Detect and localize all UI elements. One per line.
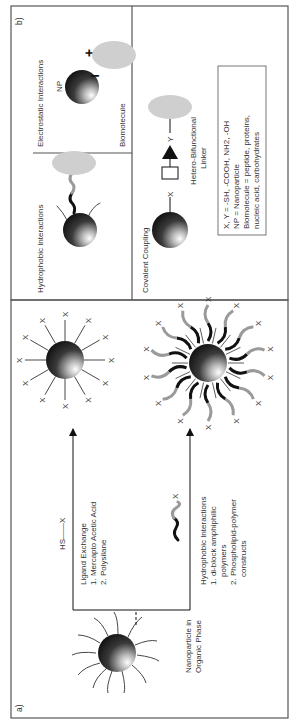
terminal-x: X [38,317,47,323]
terminal-x: X [204,424,213,430]
terminal-x: X [61,311,70,317]
terminal-x: X [61,403,70,409]
amphiphilic-polymer-icon [172,502,179,540]
ligand-reagent: HS——X [58,517,67,550]
terminal-x: X [38,397,47,403]
covalent-title: Covalent Coupling [141,228,150,293]
terminal-x: X [154,320,163,326]
terminal-x: X [101,334,110,340]
hydrophobic-biomolecule-assembly [52,151,100,247]
hydrophobic-b-title: Hydrophobic Interactions [36,205,45,294]
terminal-x: X [232,418,241,424]
linker-label-2: Linker [199,147,208,169]
hydrophobic-item-1a: 1. di-block amphiphilic [209,506,218,585]
ligand-item-2: 2. Polysilane [99,539,108,585]
diagram-canvas: a) Nanoparticle in Organic Phase HS——X L… [0,0,299,725]
biomolecule-ellipse [92,41,136,69]
terminal-x: X [107,357,116,363]
start-label-1: Nanoparticle in [184,620,193,673]
covalent-biomolecule [148,95,192,119]
minus-sign: − [90,67,99,84]
terminal-x: X [254,400,263,406]
y-label: Y [166,136,175,142]
nanoparticle-organic-phase [72,612,159,693]
terminal-x: X [154,400,163,406]
terminal-x: X [101,380,110,386]
hydrophobic-item-2b: constructs [239,541,248,577]
terminal-x: X [142,346,151,352]
biomolecule-label: Biomolecule [118,103,127,147]
terminal-x: X [204,296,213,302]
panel-b-label: b) [14,17,24,25]
terminal-x: X [84,397,93,403]
panel-a-label: a) [14,704,24,712]
legend-line-2: NP = Nanoparticle [232,163,241,229]
legend-line-3: Biomolecule = peptide, proteins, [242,115,251,229]
legend-line-1: X, Y = -SH, -COOH, NH2, -OH [222,120,231,229]
terminal-x: X [21,380,30,386]
hydrophobic-title: Hydrophobic Interactions [199,497,208,586]
linker-label-1: Hetero-Bifunctional [189,117,198,185]
legend-line-4: nucleic acid, carbohydrates [252,132,261,229]
terminal-x: X [84,317,93,323]
terminal-x: X [266,346,275,352]
terminal-x: X [142,374,151,380]
terminal-x: X [266,374,275,380]
hydrophobic-item-2a: 2. Phospholipid-polymer [229,499,238,585]
linker-box [162,167,178,179]
terminal-x: X [254,320,263,326]
figure-rotated: a) Nanoparticle in Organic Phase HS——X L… [0,0,299,725]
terminal-x: X [232,302,241,308]
polymer-coated-nanoparticle: XXXXXXXXXXXXXX [142,296,276,430]
start-label-2: Organic Phase [194,620,203,673]
terminal-x: X [176,418,185,424]
polymer-x: X [171,493,180,499]
terminal-x: X [15,357,24,363]
covalent-nanoparticle [152,212,188,248]
terminal-x: X [21,334,30,340]
electrostatic-title: Electrostatic Interactions [36,60,45,147]
linker-triangle [162,145,178,159]
ligand-title: Ligand Exchange [79,523,88,585]
x-label: X [166,191,175,197]
terminal-x: X [176,302,185,308]
ligand-exchanged-nanoparticle: XXXXXXXXXXXX [15,311,116,409]
hydrophobic-item-1b: polymers [219,545,228,577]
np-label: NP [55,81,64,92]
ligand-item-1: 1. Mercapto Acetic Acid [89,502,98,585]
